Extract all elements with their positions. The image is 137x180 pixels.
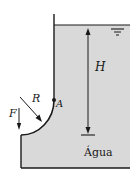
label-force: F (8, 107, 17, 120)
force-arrow (17, 108, 21, 130)
label-radius: R (31, 92, 40, 105)
label-fluid: Água (83, 145, 113, 159)
label-height: H (94, 60, 106, 74)
tank-gate-diagram: H R A F Água (0, 0, 137, 180)
label-hinge: A (55, 98, 63, 109)
